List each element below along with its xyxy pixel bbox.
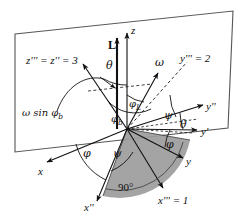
label-omega-vector: ω bbox=[155, 56, 164, 69]
label-theta-right: θ bbox=[180, 118, 187, 131]
label-right-angle: 90° bbox=[118, 181, 133, 193]
euler-angle-diagram: z''' = z'' = 3 y''' = 2 x''' = 1 x'' y''… bbox=[0, 0, 241, 217]
label-x-axis: x bbox=[37, 165, 43, 177]
label-z-triple-prime: z''' = z'' = 3 bbox=[25, 54, 78, 66]
label-y-double-prime: y'' bbox=[205, 100, 216, 112]
label-y-prime: y' bbox=[200, 125, 209, 137]
label-x-double-prime: x'' bbox=[83, 201, 94, 213]
diagram-canvas: z''' = z'' = 3 y''' = 2 x''' = 1 x'' y''… bbox=[0, 0, 241, 217]
label-theta-top: θ bbox=[106, 59, 113, 72]
arc-phi-left bbox=[76, 144, 106, 180]
label-phi-left: φ bbox=[83, 147, 91, 160]
label-z-axis: z bbox=[130, 24, 136, 36]
label-y-axis: y bbox=[185, 155, 191, 167]
label-phi-right: φ bbox=[166, 138, 174, 151]
label-psi-upper: ψ bbox=[164, 109, 173, 122]
label-x-triple-prime: x''' = 1 bbox=[157, 194, 188, 206]
label-y-triple-prime: y''' = 2 bbox=[179, 52, 211, 64]
label-angular-momentum: L bbox=[108, 38, 116, 52]
label-psi-lower: ψ bbox=[113, 147, 122, 160]
